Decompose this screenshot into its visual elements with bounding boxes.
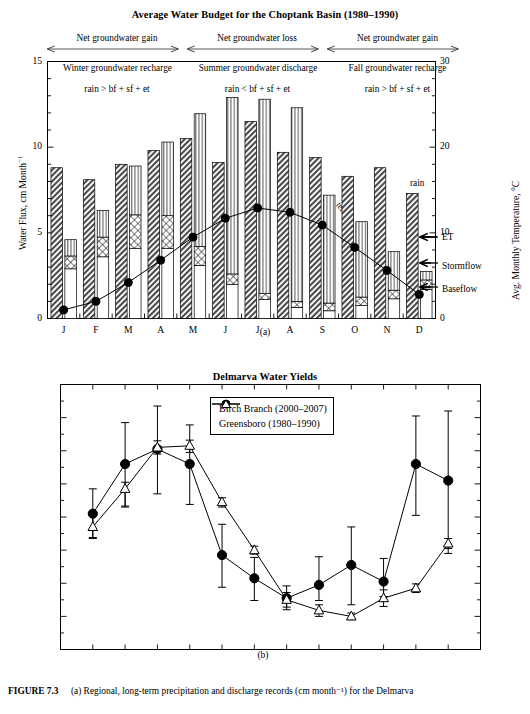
- point-greensboro-3: [185, 441, 195, 450]
- rain-bar-4: [180, 139, 192, 319]
- point-birch-branch-7: [314, 580, 323, 589]
- temperature-point-0: [60, 306, 68, 314]
- figure-number: FIGURE 7.3: [8, 686, 59, 696]
- point-birch-branch-9: [379, 577, 388, 586]
- et-bar-9: [356, 222, 368, 297]
- rain-bar-10: [374, 168, 386, 319]
- rain-bar-3: [148, 151, 160, 319]
- panel-a-xtick-3: A: [145, 324, 177, 335]
- panel-a-water-budget: Average Water Budget for the Choptank Ba…: [0, 0, 530, 345]
- panel-a-xtick-0: J: [48, 324, 80, 335]
- stormflow-bar-4: [194, 247, 206, 266]
- rain-bar-1: [83, 180, 95, 319]
- stormflow-bar-1: [97, 237, 109, 257]
- panel-a-ytick-right-10: 10: [440, 226, 450, 237]
- temperature-point-7: [286, 208, 294, 216]
- temperature-point-1: [92, 297, 100, 305]
- stormflow-bar-5: [227, 274, 239, 284]
- panel-a-ytick-0: 0: [0, 312, 42, 323]
- stormflow-bar-6: [259, 294, 271, 300]
- baseflow-bar-7: [291, 307, 303, 318]
- et-bar-1: [97, 211, 109, 238]
- temperature-point-10: [383, 267, 391, 275]
- panel-a-ytick-15: 15: [0, 55, 42, 66]
- panel-a-xtick-5: J: [209, 324, 241, 335]
- stormflow-bar-0: [65, 256, 77, 269]
- panel-b-water-yields: Delmarva Water Yields Discharge, cm Mont…: [0, 345, 530, 675]
- point-greensboro-11: [443, 538, 453, 547]
- baseflow-bar-9: [356, 306, 368, 319]
- temperature-point-9: [351, 243, 359, 251]
- panel-a-plot: [0, 0, 530, 345]
- figure-7-3: Average Water Budget for the Choptank Ba…: [0, 0, 530, 714]
- et-bar-6: [259, 99, 271, 293]
- panel-a-temperature-series: [60, 204, 424, 314]
- panel-a-xtick-11: D: [403, 324, 435, 335]
- stormflow-bar-3: [162, 216, 174, 249]
- stormflow-bar-10: [388, 290, 400, 299]
- rain-bar-5: [213, 163, 225, 319]
- baseflow-bar-5: [227, 284, 239, 318]
- rain-bar-2: [116, 164, 128, 318]
- point-birch-branch-4: [217, 550, 226, 559]
- panel-a-xtick-2: M: [112, 324, 144, 335]
- stormflow-bar-2: [130, 215, 142, 248]
- et-bar-0: [65, 240, 77, 256]
- et-bar-2: [130, 166, 142, 215]
- stormflow-bar-9: [356, 297, 368, 306]
- et-bar-5: [227, 97, 239, 273]
- panel-a-xtick-1: F: [80, 324, 112, 335]
- panel-a-xtick-4: M: [177, 324, 209, 335]
- baseflow-bar-4: [194, 265, 206, 318]
- rain-bar-0: [51, 168, 63, 319]
- temperature-point-5: [221, 214, 229, 222]
- panel-a-xtick-7: A: [274, 324, 306, 335]
- panel-b-axis-ticks: [61, 385, 481, 650]
- baseflow-bar-6: [259, 300, 271, 319]
- temperature-point-3: [157, 256, 165, 264]
- rain-bar-6: [245, 121, 257, 318]
- series-line-1: [93, 446, 448, 617]
- point-birch-branch-3: [185, 459, 194, 468]
- et-bar-8: [324, 195, 336, 303]
- figure-caption-text: (a) Regional, long-term precipitation an…: [71, 686, 413, 696]
- temperature-point-8: [318, 221, 326, 229]
- baseflow-bar-1: [97, 257, 109, 319]
- panel-b-series: [88, 406, 453, 620]
- et-bar-7: [291, 108, 303, 302]
- panel-a-ytick-right-20: 20: [440, 140, 450, 151]
- panel-a-ytick-10: 10: [0, 140, 42, 151]
- temperature-point-2: [124, 279, 132, 287]
- stormflow-bar-11: [421, 280, 433, 289]
- temperature-point-6: [254, 204, 262, 212]
- point-birch-branch-10: [411, 459, 420, 468]
- temperature-point-4: [189, 233, 197, 241]
- et-bar-4: [194, 114, 206, 247]
- point-birch-branch-11: [444, 476, 453, 485]
- point-birch-branch-8: [347, 560, 356, 569]
- panel-a-bars: [51, 97, 432, 318]
- et-bar-11: [421, 271, 433, 280]
- panel-b-plot: [0, 345, 530, 675]
- panel-a-xtick-10: N: [371, 324, 403, 335]
- rain-bar-11: [407, 193, 419, 318]
- baseflow-bar-10: [388, 299, 400, 319]
- temperature-point-11: [415, 291, 423, 299]
- panel-a-ytick-right-0: 0: [440, 312, 445, 323]
- baseflow-bar-8: [324, 311, 336, 319]
- panel-a-xtick-8: S: [306, 324, 338, 335]
- et-bar-3: [162, 142, 174, 216]
- point-birch-branch-5: [250, 574, 259, 583]
- stormflow-bar-8: [324, 303, 336, 311]
- panel-a-xtick-9: O: [339, 324, 371, 335]
- point-birch-branch-1: [121, 459, 130, 468]
- panel-a-ytick-right-30: 30: [440, 55, 450, 66]
- stormflow-bar-7: [291, 301, 303, 307]
- panel-a-ytick-5: 5: [0, 226, 42, 237]
- figure-caption: FIGURE 7.3 (a) Regional, long-term preci…: [8, 686, 524, 698]
- rain-bar-8: [310, 157, 322, 318]
- panel-a-xtick-6: J: [242, 324, 274, 335]
- rain-bar-7: [277, 152, 289, 318]
